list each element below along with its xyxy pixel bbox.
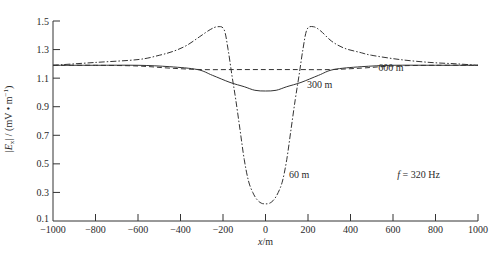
x-tick-label: 600	[386, 224, 401, 235]
x-tick-label: 800	[428, 224, 443, 235]
y-tick-label: 0.1	[37, 213, 50, 224]
curve-annotation: f = 320 Hz	[397, 169, 440, 180]
y-tick-label: 1.3	[37, 44, 50, 55]
x-tick-label: −400	[170, 224, 191, 235]
y-axis-label: |Ex| / (mV • m−1)	[2, 86, 16, 153]
x-tick-label: −800	[85, 224, 106, 235]
x-tick-label: 1000	[468, 224, 488, 235]
x-tick-label: −1000	[40, 224, 66, 235]
y-tick-label: 0.7	[37, 130, 50, 141]
y-tick-label: 1.5	[37, 16, 50, 27]
curve-annotation: 600 m	[378, 62, 404, 73]
x-ticks: −1000−800−600−400−20002004006008001000	[40, 214, 488, 235]
series-300-m	[53, 65, 478, 91]
curve-annotation: 60 m	[289, 169, 310, 180]
y-tick-label: 0.3	[37, 187, 50, 198]
x-tick-label: 400	[343, 224, 358, 235]
x-tick-label: −200	[213, 224, 234, 235]
series-600-m	[53, 65, 478, 69]
x-tick-label: 200	[301, 224, 316, 235]
y-tick-label: 0.9	[37, 101, 50, 112]
y-ticks: 0.10.30.50.70.91.11.31.5	[37, 16, 61, 225]
x-axis-label: x/m	[257, 236, 273, 247]
y-tick-label: 1.1	[37, 73, 50, 84]
annotations: 60 m300 m600 mf = 320 Hz	[289, 62, 441, 180]
y-tick-label: 0.5	[37, 158, 50, 169]
curve-annotation: 300 m	[307, 79, 333, 90]
x-tick-label: −600	[128, 224, 149, 235]
x-tick-label: 0	[263, 224, 268, 235]
axes	[53, 21, 478, 221]
line-chart: −1000−800−600−400−20002004006008001000 0…	[0, 0, 496, 260]
